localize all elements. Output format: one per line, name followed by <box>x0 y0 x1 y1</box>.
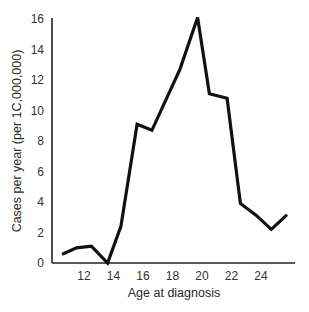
y-tick-labels: 0246810121416 <box>31 12 45 270</box>
y-tick-label: 2 <box>37 226 44 240</box>
x-axis-label: Age at diagnosis <box>128 286 220 300</box>
x-axis: 12141618202224 <box>52 263 295 283</box>
x-tick-label: 20 <box>195 269 209 283</box>
y-tick-label: 0 <box>37 256 44 270</box>
y-axis-label: Cases per year (per 1C,000,000) <box>10 50 24 233</box>
y-tick-label: 6 <box>37 165 44 179</box>
line-chart: 0246810121416 12141618202224 Age at diag… <box>0 0 309 312</box>
x-tick-labels: 12141618202224 <box>77 269 268 283</box>
data-series-line <box>63 18 286 264</box>
x-tick-label: 22 <box>225 269 239 283</box>
x-tick-label: 24 <box>254 269 268 283</box>
y-tick-label: 10 <box>31 104 45 118</box>
x-tick-label: 18 <box>166 269 180 283</box>
y-tick-label: 16 <box>31 12 45 26</box>
x-tick-label: 16 <box>136 269 150 283</box>
x-tick-label: 12 <box>77 269 91 283</box>
y-tick-label: 12 <box>31 73 45 87</box>
y-axis: 0246810121416 <box>31 12 52 270</box>
y-tick-label: 8 <box>37 134 44 148</box>
y-tick-label: 4 <box>37 195 44 209</box>
x-tick-label: 14 <box>107 269 121 283</box>
y-tick-label: 14 <box>31 43 45 57</box>
